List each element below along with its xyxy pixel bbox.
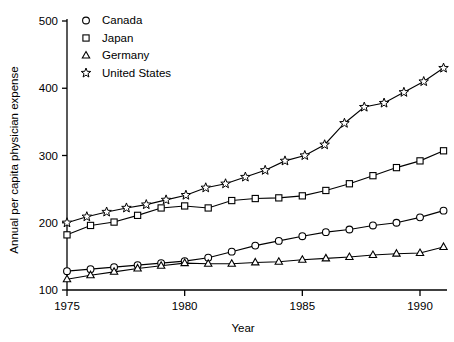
data-point-circle [440,207,447,214]
data-point-square [87,222,93,228]
data-point-circle [370,222,377,229]
data-point-square [417,158,423,164]
data-point-circle [252,242,259,249]
legend-item-label: Canada [102,14,143,26]
chart-figure: 100200300400500 1975198019851990 CanadaJ… [0,0,454,342]
y-tick-label: 400 [39,82,58,94]
data-point-circle [228,248,235,255]
data-point-square [158,205,164,211]
data-point-square [252,195,258,201]
legend-item-label: United States [102,67,171,79]
data-point-square [182,203,188,209]
data-point-square [393,165,399,171]
x-tick-label: 1990 [407,300,433,312]
x-axis-title: Year [231,322,254,334]
data-point-square [229,197,235,203]
data-point-square [276,195,282,201]
x-tick-label: 1975 [54,300,80,312]
data-point-circle [417,214,424,221]
data-point-square [323,187,329,193]
data-point-square [440,148,446,154]
x-tick-label: 1980 [172,300,198,312]
x-tick-label: 1985 [290,300,316,312]
data-point-circle [275,238,282,245]
data-point-square [83,35,89,41]
y-tick-label: 200 [39,217,58,229]
data-point-square [346,181,352,187]
data-point-square [205,205,211,211]
data-point-circle [299,233,306,240]
y-axis-title: Annual per capita physician expense [8,66,20,253]
data-point-circle [322,229,329,236]
y-tick-label: 100 [39,284,58,296]
data-point-square [370,173,376,179]
data-point-circle [83,17,90,24]
data-point-square [64,232,70,238]
data-point-square [111,219,117,225]
data-point-square [299,193,305,199]
data-point-square [135,212,141,218]
line-chart-canvas: 100200300400500 1975198019851990 CanadaJ… [0,0,454,342]
legend-item-label: Germany [102,49,150,61]
legend-item-label: Japan [102,32,133,44]
data-point-circle [64,268,71,275]
y-tick-label: 500 [39,15,58,27]
data-point-circle [346,226,353,233]
y-tick-label: 300 [39,150,58,162]
data-point-circle [393,219,400,226]
